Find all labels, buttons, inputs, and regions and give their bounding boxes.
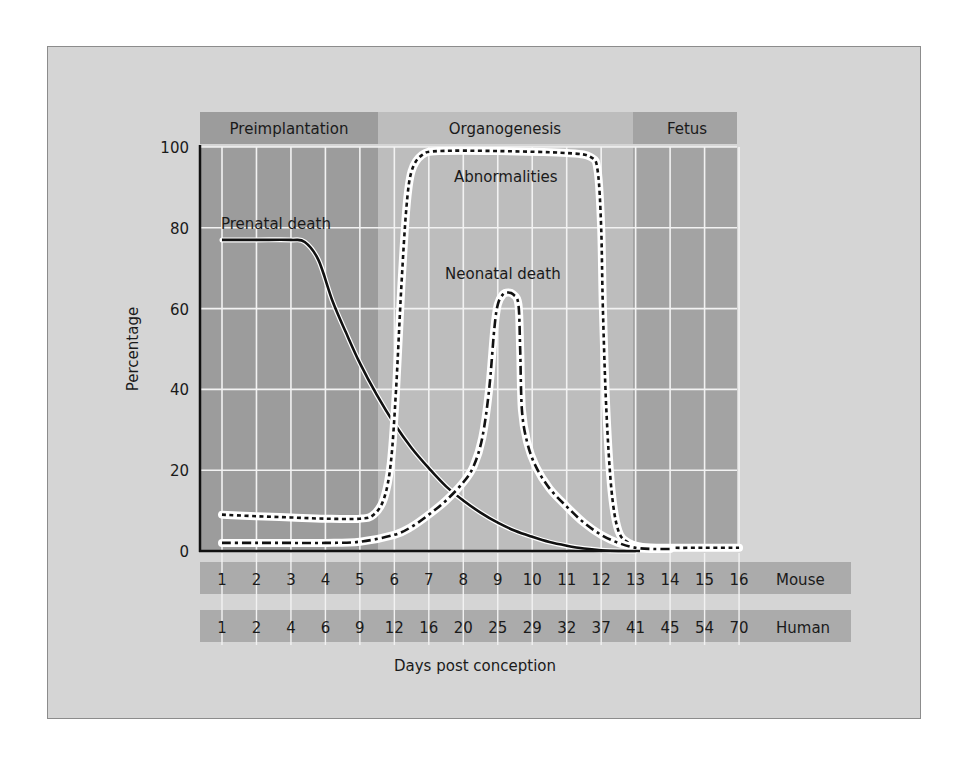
human-day-tick: 6 bbox=[321, 619, 331, 637]
mouse-day-tick: 1 bbox=[217, 571, 227, 589]
neonatal-death-label: Neonatal death bbox=[445, 265, 561, 283]
mouse-day-tick: 5 bbox=[355, 571, 365, 589]
human-day-tick: 2 bbox=[252, 619, 262, 637]
mouse-day-tick: 6 bbox=[390, 571, 400, 589]
stage-fetus-label: Fetus bbox=[667, 120, 707, 138]
mouse-day-tick: 16 bbox=[730, 571, 749, 589]
stage-organogenesis-label: Organogenesis bbox=[449, 120, 562, 138]
human-day-tick: 54 bbox=[695, 619, 714, 637]
human-day-tick: 9 bbox=[355, 619, 365, 637]
y-tick-labels: 020406080100 bbox=[160, 139, 189, 561]
human-day-tick: 32 bbox=[557, 619, 576, 637]
mouse-row-label: Mouse bbox=[776, 571, 825, 589]
stage-header: Preimplantation Organogenesis Fetus bbox=[200, 112, 737, 144]
abnormalities-label: Abnormalities bbox=[454, 168, 558, 186]
stage-shading bbox=[200, 147, 737, 551]
human-day-tick: 12 bbox=[385, 619, 404, 637]
mouse-day-tick: 4 bbox=[321, 571, 331, 589]
x-axis-title: Days post conception bbox=[394, 657, 556, 675]
human-day-tick: 1 bbox=[217, 619, 227, 637]
human-day-tick: 41 bbox=[626, 619, 645, 637]
y-tick: 40 bbox=[170, 381, 189, 399]
prenatal-death-label: Prenatal death bbox=[221, 215, 331, 233]
chart: Preimplantation Organogenesis Fetus 1234… bbox=[0, 0, 957, 760]
mouse-day-tick: 14 bbox=[661, 571, 680, 589]
y-tick: 100 bbox=[160, 139, 189, 157]
mouse-day-tick: 9 bbox=[493, 571, 503, 589]
human-day-tick: 16 bbox=[419, 619, 438, 637]
mouse-day-tick: 8 bbox=[459, 571, 469, 589]
human-day-tick: 25 bbox=[488, 619, 507, 637]
y-tick: 60 bbox=[170, 301, 189, 319]
mouse-day-tick: 13 bbox=[626, 571, 645, 589]
human-day-tick: 4 bbox=[286, 619, 296, 637]
mouse-day-tick: 7 bbox=[424, 571, 434, 589]
human-day-tick: 70 bbox=[730, 619, 749, 637]
stage-preimplantation-label: Preimplantation bbox=[230, 120, 349, 138]
mouse-day-tick: 15 bbox=[695, 571, 714, 589]
human-day-tick: 29 bbox=[523, 619, 542, 637]
y-tick: 20 bbox=[170, 462, 189, 480]
stage-fetus-bg bbox=[633, 147, 737, 551]
human-day-tick: 37 bbox=[592, 619, 611, 637]
human-row-label: Human bbox=[776, 619, 830, 637]
mouse-day-tick: 11 bbox=[557, 571, 576, 589]
human-day-tick: 45 bbox=[661, 619, 680, 637]
y-tick: 0 bbox=[179, 543, 189, 561]
mouse-day-tick: 3 bbox=[286, 571, 296, 589]
mouse-day-tick: 10 bbox=[523, 571, 542, 589]
human-day-tick: 20 bbox=[454, 619, 473, 637]
stage-organogenesis-bg bbox=[378, 147, 633, 551]
y-axis-title: Percentage bbox=[124, 307, 142, 391]
y-tick: 80 bbox=[170, 220, 189, 238]
mouse-day-tick: 2 bbox=[252, 571, 262, 589]
mouse-day-tick: 12 bbox=[592, 571, 611, 589]
